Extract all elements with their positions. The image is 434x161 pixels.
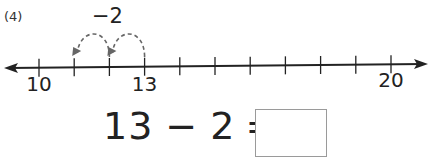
- tick-label-13: 13: [132, 72, 157, 96]
- tick-label-20: 20: [378, 68, 403, 92]
- jump-arc: [77, 34, 109, 57]
- tick-label-10: 10: [26, 72, 51, 96]
- axis-line: [8, 64, 424, 68]
- answer-box[interactable]: [255, 109, 327, 157]
- left-operand: 13: [103, 104, 153, 148]
- jump-arrow-icon: [72, 47, 81, 56]
- jump-arc: [112, 34, 144, 57]
- minus-operator: −: [165, 104, 198, 148]
- right-operand: 2: [210, 104, 235, 148]
